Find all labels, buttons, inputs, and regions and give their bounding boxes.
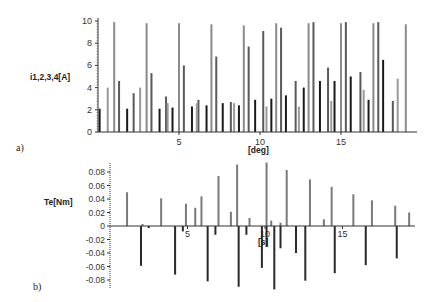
b-y-tick-label: -0.06 — [86, 262, 106, 272]
current-pulse — [254, 100, 256, 132]
panel-a-label: a) — [16, 142, 24, 154]
torque-spike — [365, 226, 367, 265]
b-y-tick-label: 0 — [100, 221, 105, 231]
a-y-tick-label: 4 — [87, 83, 92, 93]
current-pulse — [327, 68, 329, 132]
panel-b-label: b) — [33, 281, 41, 293]
current-pulse — [298, 106, 300, 132]
torque-spike — [174, 226, 176, 275]
current-pulse — [159, 109, 161, 132]
current-pulse — [397, 79, 399, 132]
torque-spike — [286, 170, 288, 226]
current-pulse — [167, 103, 169, 132]
current-pulse — [275, 23, 277, 132]
b-x-tick-label: 15 — [337, 229, 347, 239]
a-y-tick-label: 8 — [87, 38, 92, 48]
current-pulse — [265, 106, 267, 132]
torque-spike — [236, 165, 238, 226]
current-pulse — [340, 23, 342, 132]
current-pulse — [215, 57, 217, 132]
current-pulse — [359, 72, 361, 132]
torque-spike — [185, 204, 187, 226]
b-y-tick-label: 0.08 — [88, 167, 105, 177]
torque-spike — [249, 218, 251, 226]
torque-spike — [238, 226, 240, 287]
current-pulse — [372, 23, 374, 132]
figure: 0246810 51015 i1,2,3,4[A] [deg] a) 0.080… — [0, 0, 431, 302]
current-pulse — [280, 28, 282, 132]
torque-spike — [371, 200, 373, 226]
current-pulse — [146, 23, 148, 132]
current-pulse — [126, 109, 128, 132]
current-pulse — [196, 103, 198, 132]
current-bars — [99, 22, 407, 132]
current-pulse — [377, 22, 379, 132]
current-pulse — [345, 22, 347, 132]
torque-spike — [182, 226, 184, 231]
torque-spike — [352, 194, 354, 226]
torque-spike — [140, 226, 142, 266]
current-pulse — [118, 81, 120, 132]
torque-spike — [334, 226, 336, 273]
current-pulse — [133, 93, 135, 132]
torque-spike — [194, 208, 196, 226]
b-y-ticks: 0.080.060.040.020-0.02-0.04-0.06-0.08 — [86, 167, 110, 285]
torque-spike — [207, 226, 209, 281]
torque-spike — [126, 192, 128, 226]
a-y-tick-label: 6 — [87, 60, 92, 70]
current-pulse — [172, 108, 174, 132]
torque-spike — [266, 163, 268, 226]
current-pulse — [150, 73, 152, 132]
current-pulse — [308, 23, 310, 132]
torque-spike — [309, 179, 311, 226]
b-y-tick-label: 0.02 — [88, 208, 105, 218]
torque-spike — [280, 226, 282, 248]
current-pulse — [330, 101, 332, 132]
current-pulse — [270, 99, 272, 132]
a-x-tick-label: 5 — [176, 137, 181, 147]
b-y-label: Te[Nm] — [44, 197, 73, 207]
a-x-tick-label: 15 — [336, 137, 346, 147]
current-pulse — [312, 22, 314, 132]
torque-spike — [273, 226, 275, 289]
current-pulse — [222, 103, 224, 132]
current-pulse — [210, 24, 212, 132]
current-pulse — [248, 47, 250, 132]
current-pulse — [368, 100, 370, 132]
b-x-tick-label: 5 — [185, 229, 190, 239]
torque-spike — [323, 219, 325, 226]
b-y-tick-label: -0.08 — [86, 275, 106, 285]
a-y-tick-label: 10 — [82, 16, 92, 26]
current-pulse — [303, 88, 305, 132]
current-pulse — [392, 101, 394, 132]
torque-spike — [280, 223, 282, 226]
torque-spike — [218, 176, 220, 226]
b-y-tick-label: -0.04 — [86, 248, 106, 258]
current-pulse — [238, 105, 240, 132]
current-pulse — [243, 25, 245, 132]
current-pulse — [319, 81, 321, 132]
torque-spike — [331, 187, 333, 226]
a-y-tick-label: 0 — [87, 127, 92, 137]
current-pulse — [178, 23, 180, 132]
torque-chart: 0.080.060.040.020-0.02-0.04-0.06-0.08 51… — [33, 163, 415, 293]
torque-spike — [230, 212, 232, 226]
current-pulse — [113, 22, 115, 132]
current-pulse — [230, 102, 232, 132]
a-y-label: i1,2,3,4[A] — [30, 72, 70, 82]
current-pulse — [285, 95, 287, 132]
torque-spike — [214, 226, 216, 235]
current-pulse — [183, 65, 185, 132]
torque-spike — [270, 221, 272, 226]
torque-spike — [394, 206, 396, 226]
b-y-tick-label: 0.06 — [88, 181, 105, 191]
torque-spike — [200, 196, 202, 226]
torque-spike — [304, 226, 306, 281]
a-y-ticks: 0246810 — [82, 16, 98, 137]
torque-spike — [160, 198, 162, 226]
a-x-label: [deg] — [248, 145, 269, 155]
current-chart: 0246810 51015 i1,2,3,4[A] [deg] a) — [16, 16, 417, 155]
torque-spike — [295, 226, 297, 253]
current-pulse — [206, 105, 208, 132]
torque-spike — [396, 226, 398, 258]
